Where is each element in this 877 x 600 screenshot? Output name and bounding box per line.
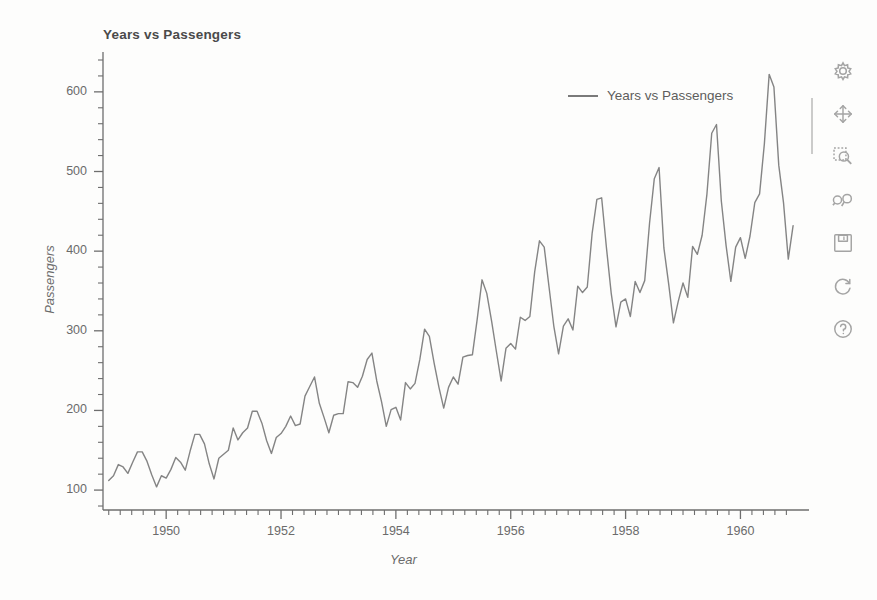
x-tick-label: 1952: [251, 524, 311, 538]
y-tick-label: 600: [41, 84, 87, 98]
legend-entry-label: Years vs Passengers: [607, 88, 733, 103]
y-tick-label: 500: [41, 164, 87, 178]
x-tick-label: 1950: [136, 524, 196, 538]
help-question-icon[interactable]: [828, 314, 858, 344]
save-floppy-icon[interactable]: [828, 228, 858, 258]
x-tick-label: 1960: [710, 524, 770, 538]
zoom-out-icon[interactable]: [828, 185, 858, 215]
legend-line-swatch: [568, 95, 598, 97]
chart-legend: Years vs Passengers: [568, 88, 733, 103]
x-tick-label: 1954: [366, 524, 426, 538]
y-tick-label: 100: [41, 482, 87, 496]
x-axis-label: Year: [390, 552, 417, 567]
chart-toolbar: [821, 56, 865, 344]
y-axis-label: Passengers: [42, 225, 57, 335]
properties-gear-icon[interactable]: [828, 56, 858, 86]
chart-application: Years vs Passengers 100200300400500600 1…: [0, 0, 877, 600]
plot-area[interactable]: 100200300400500600 195019521954195619581…: [0, 0, 877, 600]
chart-canvas[interactable]: [0, 0, 877, 600]
series-line: [109, 74, 793, 487]
pan-move-icon[interactable]: [828, 99, 858, 129]
x-tick-label: 1958: [596, 524, 656, 538]
zoom-in-icon[interactable]: [828, 142, 858, 172]
x-tick-label: 1956: [481, 524, 541, 538]
axis-layer: [94, 52, 809, 519]
data-series-layer: [109, 74, 793, 487]
reset-refresh-icon[interactable]: [828, 271, 858, 301]
toolbar-rail-divider: [811, 98, 813, 154]
y-tick-label: 200: [41, 402, 87, 416]
